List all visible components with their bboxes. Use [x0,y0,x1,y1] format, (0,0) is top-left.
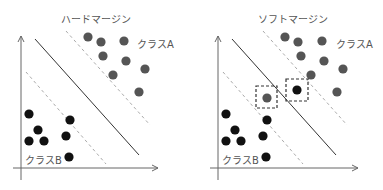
class-b-points [221,85,301,161]
hard-margin-panel: ハードマージン クラスA クラスB [13,14,174,180]
decision-boundary-line [35,39,139,155]
class-a-points [262,32,347,102]
svm-margin-diagram: ハードマージン クラスA クラスB ソフトマージン [0,0,383,190]
hard-margin-title: ハードマージン [61,14,131,25]
soft-margin-title: ソフトマージン [258,14,328,25]
soft-margin-panel: ソフトマージン クラスA クラスB [210,14,373,180]
upper-margin-line [263,31,347,125]
class-b-points [24,109,74,161]
class-a-label: クラスA [336,39,373,50]
class-b-label: クラスB [222,155,259,166]
decision-boundary-line [232,39,336,155]
class-b-label: クラスB [25,155,62,166]
class-a-label: クラスA [137,39,174,50]
